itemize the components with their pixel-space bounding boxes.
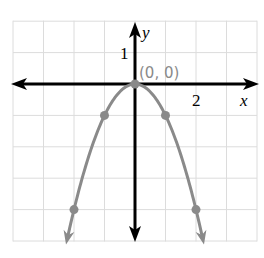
x-axis-label: x — [239, 91, 248, 110]
data-point — [192, 205, 201, 214]
y-tick-label: 1 — [120, 44, 129, 63]
parabola-graph: y x 1 2 (0, 0) — [0, 0, 264, 258]
data-point — [161, 111, 170, 120]
data-point — [100, 111, 109, 120]
data-point — [70, 205, 79, 214]
y-axis-label: y — [140, 23, 150, 42]
vertex-label: (0, 0) — [139, 64, 179, 82]
x-tick-label: 2 — [192, 91, 201, 110]
axes — [11, 22, 259, 242]
